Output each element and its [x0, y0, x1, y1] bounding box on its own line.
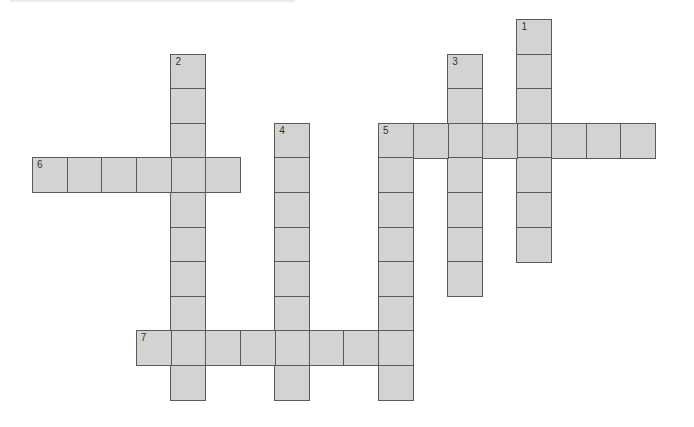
- cell-letter-input[interactable]: [483, 124, 517, 158]
- cell-letter-input[interactable]: [448, 193, 482, 227]
- cell-letter-input[interactable]: [379, 262, 413, 296]
- crossword-cell[interactable]: [274, 192, 310, 228]
- crossword-cell[interactable]: [378, 330, 414, 366]
- crossword-cell[interactable]: [274, 261, 310, 297]
- crossword-cell[interactable]: [240, 330, 276, 366]
- cell-letter-input[interactable]: [517, 193, 551, 227]
- crossword-cell[interactable]: [378, 157, 414, 193]
- cell-letter-input[interactable]: [206, 331, 240, 365]
- crossword-cell[interactable]: [170, 365, 206, 401]
- cell-letter-input[interactable]: [171, 228, 205, 262]
- cell-letter-input[interactable]: [68, 158, 102, 192]
- cell-letter-input[interactable]: [171, 297, 205, 331]
- cell-letter-input[interactable]: [379, 366, 413, 400]
- cell-letter-input[interactable]: [344, 331, 378, 365]
- crossword-cell[interactable]: [447, 261, 483, 297]
- crossword-cell[interactable]: [170, 261, 206, 297]
- crossword-cell[interactable]: [309, 330, 345, 366]
- crossword-cell[interactable]: [343, 330, 379, 366]
- crossword-cell[interactable]: [170, 123, 206, 159]
- crossword-cell[interactable]: [67, 157, 103, 193]
- cell-letter-input[interactable]: [379, 124, 413, 158]
- cell-letter-input[interactable]: [379, 331, 413, 365]
- crossword-cell[interactable]: [447, 123, 483, 159]
- crossword-cell[interactable]: [378, 192, 414, 228]
- cell-letter-input[interactable]: [137, 158, 171, 192]
- cell-letter-input[interactable]: [517, 89, 551, 123]
- crossword-cell[interactable]: [378, 261, 414, 297]
- cell-letter-input[interactable]: [379, 193, 413, 227]
- cell-letter-input[interactable]: [517, 124, 551, 158]
- crossword-cell[interactable]: [274, 330, 310, 366]
- cell-letter-input[interactable]: [448, 158, 482, 192]
- cell-letter-input[interactable]: [275, 297, 309, 331]
- cell-letter-input[interactable]: [587, 124, 621, 158]
- cell-letter-input[interactable]: [552, 124, 586, 158]
- cell-letter-input[interactable]: [171, 331, 205, 365]
- crossword-cell[interactable]: [274, 157, 310, 193]
- crossword-cell[interactable]: [551, 123, 587, 159]
- cell-letter-input[interactable]: [448, 124, 482, 158]
- crossword-cell[interactable]: [378, 365, 414, 401]
- cell-letter-input[interactable]: [275, 331, 309, 365]
- cell-letter-input[interactable]: [275, 193, 309, 227]
- crossword-cell[interactable]: [170, 88, 206, 124]
- crossword-cell[interactable]: [447, 227, 483, 263]
- cell-letter-input[interactable]: [137, 331, 171, 365]
- cell-letter-input[interactable]: [171, 158, 205, 192]
- crossword-cell[interactable]: [516, 157, 552, 193]
- crossword-cell[interactable]: 4: [274, 123, 310, 159]
- cell-letter-input[interactable]: [517, 228, 551, 262]
- cell-letter-input[interactable]: [275, 366, 309, 400]
- crossword-cell[interactable]: [170, 157, 206, 193]
- cell-letter-input[interactable]: [275, 262, 309, 296]
- crossword-cell[interactable]: [516, 227, 552, 263]
- cell-letter-input[interactable]: [517, 20, 551, 54]
- cell-letter-input[interactable]: [275, 124, 309, 158]
- cell-letter-input[interactable]: [171, 124, 205, 158]
- crossword-cell[interactable]: [447, 192, 483, 228]
- cell-letter-input[interactable]: [379, 228, 413, 262]
- cell-letter-input[interactable]: [379, 158, 413, 192]
- crossword-cell[interactable]: [170, 296, 206, 332]
- crossword-cell[interactable]: [516, 88, 552, 124]
- crossword-cell[interactable]: [620, 123, 656, 159]
- crossword-cell[interactable]: 7: [136, 330, 172, 366]
- crossword-cell[interactable]: [274, 296, 310, 332]
- crossword-cell[interactable]: [516, 123, 552, 159]
- cell-letter-input[interactable]: [206, 158, 240, 192]
- cell-letter-input[interactable]: [275, 228, 309, 262]
- crossword-cell[interactable]: [101, 157, 137, 193]
- crossword-cell[interactable]: 1: [516, 19, 552, 55]
- cell-letter-input[interactable]: [448, 89, 482, 123]
- crossword-cell[interactable]: [586, 123, 622, 159]
- cell-letter-input[interactable]: [310, 331, 344, 365]
- cell-letter-input[interactable]: [517, 55, 551, 89]
- crossword-cell[interactable]: 5: [378, 123, 414, 159]
- crossword-cell[interactable]: [447, 88, 483, 124]
- cell-letter-input[interactable]: [517, 158, 551, 192]
- cell-letter-input[interactable]: [448, 228, 482, 262]
- crossword-cell[interactable]: 2: [170, 54, 206, 90]
- crossword-cell[interactable]: [170, 330, 206, 366]
- cell-letter-input[interactable]: [171, 366, 205, 400]
- cell-letter-input[interactable]: [379, 297, 413, 331]
- crossword-cell[interactable]: [205, 157, 241, 193]
- crossword-cell[interactable]: [170, 192, 206, 228]
- crossword-cell[interactable]: [378, 296, 414, 332]
- crossword-cell[interactable]: [378, 227, 414, 263]
- crossword-cell[interactable]: 3: [447, 54, 483, 90]
- cell-letter-input[interactable]: [171, 55, 205, 89]
- crossword-cell[interactable]: [447, 157, 483, 193]
- crossword-cell[interactable]: [205, 330, 241, 366]
- cell-letter-input[interactable]: [621, 124, 655, 158]
- cell-letter-input[interactable]: [171, 262, 205, 296]
- crossword-cell[interactable]: [413, 123, 449, 159]
- crossword-cell[interactable]: [170, 227, 206, 263]
- cell-letter-input[interactable]: [414, 124, 448, 158]
- crossword-cell[interactable]: [274, 365, 310, 401]
- cell-letter-input[interactable]: [102, 158, 136, 192]
- cell-letter-input[interactable]: [241, 331, 275, 365]
- cell-letter-input[interactable]: [171, 89, 205, 123]
- cell-letter-input[interactable]: [275, 158, 309, 192]
